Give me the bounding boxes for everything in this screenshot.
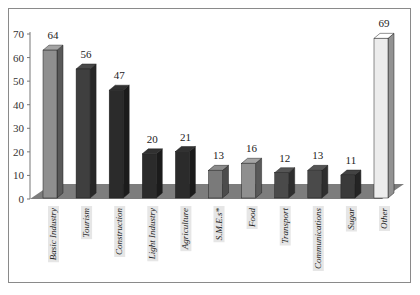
- svg-text:Light Industry: Light Industry: [147, 208, 157, 260]
- x-category-label: Food: [247, 206, 258, 229]
- x-category-label: Other: [379, 206, 390, 231]
- svg-text:Agriculture: Agriculture: [180, 208, 190, 250]
- x-axis-labels: Basic IndustryTourismConstructionLight I…: [48, 206, 390, 271]
- data-label: 69: [379, 17, 391, 29]
- y-tick-label: 40: [13, 99, 25, 111]
- x-category-label: Light Industry: [147, 206, 158, 261]
- svg-text:Sugar: Sugar: [346, 208, 356, 230]
- y-tick-label: 30: [13, 122, 25, 134]
- bar: [43, 45, 63, 198]
- svg-text:Construction: Construction: [114, 208, 124, 256]
- y-tick-label: 20: [13, 146, 25, 158]
- bar-chart: 010203040506070 6456472021131612131169 B…: [0, 0, 420, 295]
- y-tick-label: 50: [13, 75, 25, 87]
- svg-text:Tourism: Tourism: [81, 208, 91, 238]
- x-category-label: Tourism: [81, 206, 92, 239]
- data-label: 64: [48, 29, 60, 41]
- bar: [76, 64, 96, 198]
- svg-text:Communications: Communications: [313, 208, 323, 269]
- bar: [308, 165, 328, 198]
- data-label: 11: [346, 154, 357, 166]
- x-category-label: Basic Industry: [48, 206, 59, 262]
- data-label: 47: [114, 69, 126, 81]
- bar: [275, 168, 295, 198]
- x-category-label: Communications: [313, 206, 324, 271]
- y-tick-label: 70: [13, 28, 25, 40]
- y-tick-label: 0: [19, 193, 25, 205]
- bar: [142, 149, 162, 198]
- data-label: 13: [312, 149, 324, 161]
- svg-text:Basic Industry: Basic Industry: [48, 208, 58, 260]
- bar: [209, 165, 229, 198]
- x-category-label: S.M.E.s*: [214, 206, 225, 242]
- data-label: 12: [279, 152, 290, 164]
- bar: [242, 158, 262, 198]
- x-category-label: Construction: [114, 206, 125, 257]
- svg-text:Transport: Transport: [280, 208, 290, 244]
- bar: [109, 85, 129, 198]
- y-tick-label: 60: [13, 52, 25, 64]
- x-category-label: Transport: [280, 206, 291, 246]
- svg-text:Food: Food: [247, 208, 257, 228]
- svg-text:S.M.E.s*: S.M.E.s*: [214, 208, 224, 241]
- data-label: 56: [81, 48, 93, 60]
- bars: 6456472021131612131169: [43, 17, 394, 198]
- svg-text:Other: Other: [379, 208, 389, 229]
- bar: [341, 170, 361, 198]
- x-category-label: Agriculture: [180, 206, 191, 251]
- bar: [175, 147, 195, 199]
- bar: [374, 33, 394, 198]
- data-label: 21: [180, 131, 191, 143]
- y-axis: 010203040506070: [13, 28, 30, 205]
- data-label: 20: [147, 133, 159, 145]
- y-tick-label: 10: [13, 169, 25, 181]
- data-label: 16: [246, 142, 258, 154]
- x-category-label: Sugar: [346, 206, 357, 232]
- data-label: 13: [213, 149, 225, 161]
